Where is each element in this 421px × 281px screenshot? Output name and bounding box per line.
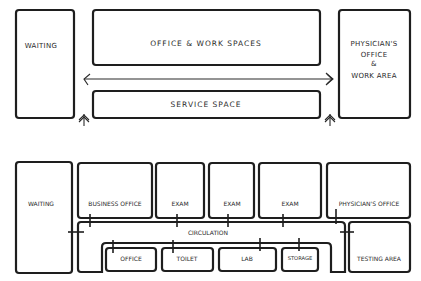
top-physicians-office: PHYSICIAN'S OFFICE & WORK AREA [339, 10, 410, 118]
bottom-waiting-label: WAITING [28, 200, 54, 207]
top-waiting-label: WAITING [25, 42, 58, 50]
floor-plan-diagrams: WAITING OFFICE & WORK SPACES SERVICE SPA… [0, 0, 421, 281]
storage-room: STORAGE [282, 248, 318, 271]
toilet-label: TOILET [176, 255, 198, 262]
exam-room-2: EXAM [209, 163, 254, 218]
top-waiting-room: WAITING [16, 10, 74, 118]
exam-room-3: EXAM [259, 163, 321, 218]
office-label: OFFICE [120, 255, 142, 262]
bottom-diagram: WAITING BUSINESS OFFICE EXAM EXAM EXAM P… [16, 162, 410, 273]
top-diagram: WAITING OFFICE & WORK SPACES SERVICE SPA… [16, 10, 410, 126]
top-office-work-spaces: OFFICE & WORK SPACES [93, 10, 320, 65]
entry-arrow-icon-right [325, 114, 335, 126]
bottom-waiting-room: WAITING [16, 162, 72, 273]
top-office-work-label: OFFICE & WORK SPACES [150, 39, 262, 48]
testing-area-label: TESTING AREA [356, 255, 402, 262]
top-physician-label-1: PHYSICIAN'S [351, 40, 398, 48]
top-physician-label-3: & [371, 60, 377, 68]
toilet-room: TOILET [162, 248, 213, 271]
circulation-label: CIRCULATION [188, 229, 228, 236]
entry-arrow-icon-left [79, 114, 89, 126]
double-arrow-icon [84, 73, 333, 85]
business-office: BUSINESS OFFICE [78, 163, 152, 218]
storage-label: STORAGE [288, 255, 313, 261]
top-physician-label-4: WORK AREA [351, 72, 397, 80]
business-office-label: BUSINESS OFFICE [88, 200, 141, 207]
bottom-physicians-office: PHYSICIAN'S OFFICE [327, 163, 410, 218]
bottom-physicians-office-label: PHYSICIAN'S OFFICE [339, 200, 400, 207]
top-service-label: SERVICE SPACE [171, 100, 242, 109]
exam-room-1: EXAM [156, 163, 204, 218]
exam-2-label: EXAM [223, 200, 240, 207]
exam-3-label: EXAM [281, 200, 298, 207]
exam-1-label: EXAM [171, 200, 188, 207]
top-service-space: SERVICE SPACE [93, 91, 320, 118]
lab-room: LAB [219, 248, 276, 271]
lab-label: LAB [241, 255, 253, 262]
top-physician-label-2: OFFICE [361, 51, 388, 59]
testing-area: TESTING AREA [349, 222, 410, 272]
